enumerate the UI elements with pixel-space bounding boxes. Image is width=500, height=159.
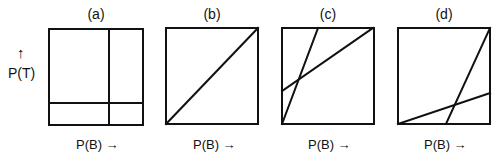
panel-a bbox=[49, 29, 143, 125]
panel-c bbox=[282, 28, 374, 124]
panel-b-diagonal-line bbox=[166, 28, 258, 124]
panel-d-steep-line bbox=[446, 28, 490, 124]
panel-c-x-axis-label: P(B) → bbox=[308, 137, 351, 152]
panel-a-x-axis-label: P(B) → bbox=[76, 137, 119, 152]
panel-c-shallow-line bbox=[282, 28, 373, 91]
diagram-canvas bbox=[0, 0, 500, 159]
panel-d-shallow-line bbox=[398, 93, 490, 124]
panel-c-steep-line bbox=[282, 28, 318, 124]
panel-b-x-axis-label: P(B) → bbox=[193, 137, 236, 152]
panel-b bbox=[166, 28, 258, 124]
panel-c-frame bbox=[282, 28, 374, 124]
panel-d-frame bbox=[398, 28, 490, 124]
panel-d-x-axis-label: P(B) → bbox=[424, 137, 467, 152]
panel-a-frame bbox=[49, 29, 143, 125]
panel-d bbox=[398, 28, 490, 124]
